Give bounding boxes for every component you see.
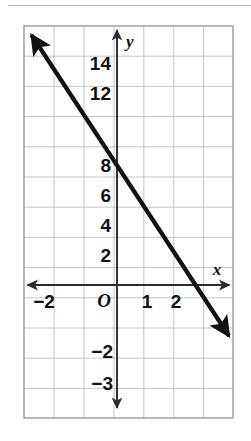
- y-tick-label-14: 14: [90, 53, 112, 74]
- x-axis-label: x: [212, 260, 222, 279]
- y-axis-label: y: [124, 32, 134, 51]
- y-tick-label-6: 6: [100, 185, 111, 206]
- y-tick-label-12: 12: [90, 83, 111, 104]
- figure-container: y x O 14 12 8 6 4 2 −2 −3 −2 1 2: [0, 0, 251, 441]
- y-tick-label-neg2: −2: [91, 341, 113, 362]
- plot-background: [24, 26, 233, 418]
- y-tick-label-4: 4: [100, 215, 111, 236]
- y-tick-label-2: 2: [100, 245, 111, 266]
- origin-label: O: [97, 290, 111, 311]
- y-tick-label-8: 8: [100, 155, 111, 176]
- x-tick-label-2: 2: [171, 291, 182, 312]
- x-tick-label-1: 1: [142, 291, 153, 312]
- coordinate-plane-graph: y x O 14 12 8 6 4 2 −2 −3 −2 1 2: [0, 0, 251, 441]
- y-tick-label-neg3: −3: [91, 373, 113, 394]
- x-tick-label-neg2: −2: [33, 291, 55, 312]
